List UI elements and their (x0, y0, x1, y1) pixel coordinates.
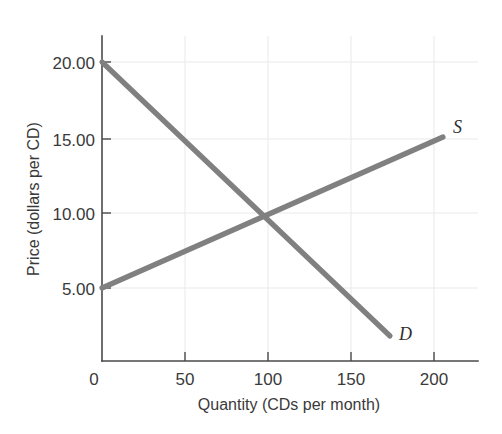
y-tick-label-5: 5.00 (62, 280, 95, 299)
supply-demand-chart: 20.00 15.00 10.00 5.00 0 50 100 150 200 … (0, 0, 502, 434)
supply-curve-label: S (453, 117, 462, 137)
x-tick-label-0: 0 (89, 370, 98, 389)
demand-curve-label: D (398, 324, 412, 344)
y-axis-ticks (102, 62, 111, 288)
x-axis-title: Quantity (CDs per month) (198, 396, 380, 413)
x-axis-ticks (185, 352, 434, 361)
gridlines (102, 36, 478, 361)
y-tick-label-10: 10.00 (52, 205, 95, 224)
y-tick-label-20: 20.00 (52, 54, 95, 73)
x-tick-label-100: 100 (254, 370, 282, 389)
y-tick-label-15: 15.00 (52, 131, 95, 150)
x-tick-label-150: 150 (337, 370, 365, 389)
chart-svg: 20.00 15.00 10.00 5.00 0 50 100 150 200 … (0, 0, 502, 434)
x-tick-label-200: 200 (420, 370, 448, 389)
demand-curve (102, 62, 390, 336)
y-axis-title: Price (dollars per CD) (25, 122, 42, 276)
x-tick-label-50: 50 (176, 370, 195, 389)
